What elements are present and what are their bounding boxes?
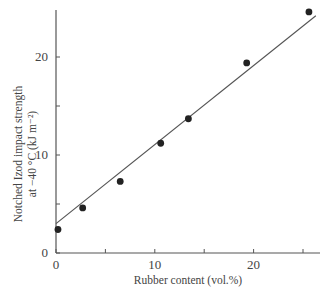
data-point (157, 140, 164, 147)
data-point (117, 178, 124, 185)
x-tick-label: 20 (247, 257, 260, 272)
y-axis-title-line1: Notched Izod impact strength (12, 86, 25, 223)
x-tick-label: 0 (53, 257, 60, 272)
data-point (306, 9, 313, 16)
y-tick-label: 0 (42, 245, 49, 260)
data-point (243, 59, 250, 66)
x-tick-label: 10 (148, 257, 161, 272)
x-axis-title: Rubber content (vol.%) (134, 274, 242, 287)
data-point (55, 226, 62, 233)
data-points (55, 9, 313, 233)
y-axis-title-line2: at −40 °C (kJ m⁻²) (26, 111, 39, 198)
data-point (185, 115, 192, 122)
axes: 0102001020 (35, 10, 320, 272)
data-point (79, 205, 86, 212)
y-tick-label: 20 (35, 49, 48, 64)
scatter-chart: 0102001020 Rubber content (vol.%) Notche… (0, 0, 326, 296)
